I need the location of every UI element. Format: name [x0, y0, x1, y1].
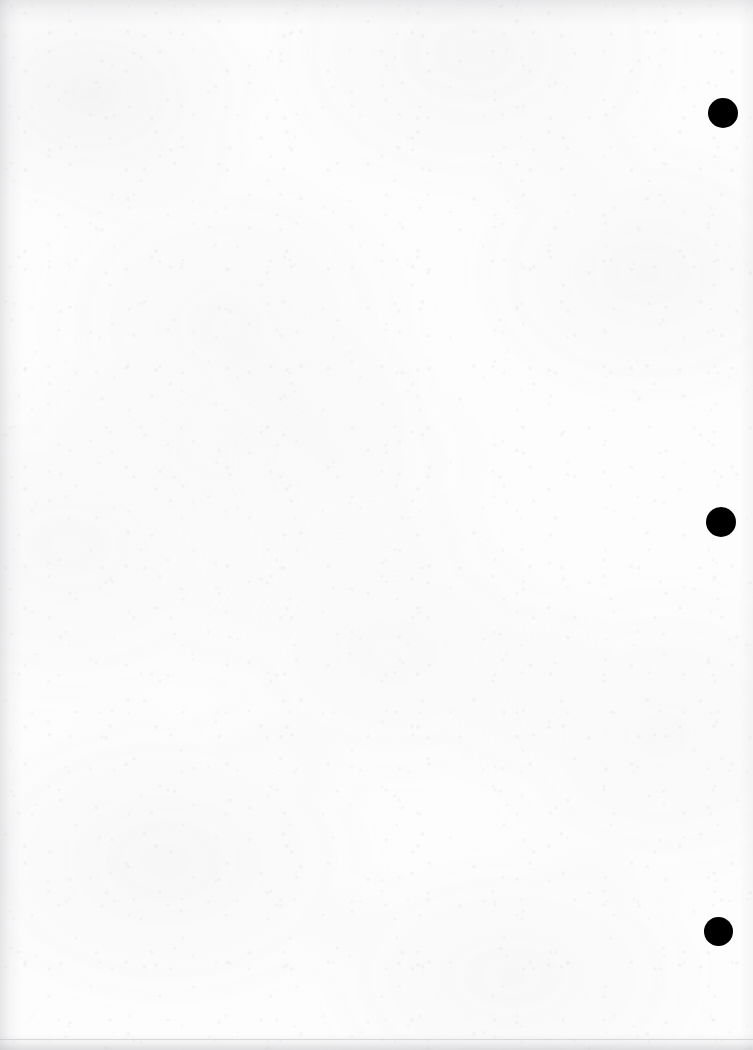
- marker-dot-1: [708, 98, 738, 128]
- marker-dot-2: [706, 507, 736, 537]
- scan-bottom-rule: [0, 1039, 753, 1040]
- scan-edge-left: [0, 0, 22, 1050]
- paper-scan-grain: [0, 0, 753, 1050]
- scan-edge-bottom: [0, 1034, 753, 1050]
- marker-dot-3: [704, 917, 733, 946]
- scan-edge-top: [0, 0, 753, 26]
- scan-edge-right: [739, 0, 753, 1050]
- scanned-page: [0, 0, 753, 1050]
